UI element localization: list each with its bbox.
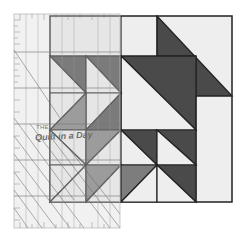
quilt-illustration <box>0 0 243 239</box>
ruler-brand-prefix: THE <box>36 124 49 130</box>
acrylic-ruler <box>14 14 120 228</box>
quilt-ruler-photo: THE Quilt in a Day <box>0 0 243 239</box>
